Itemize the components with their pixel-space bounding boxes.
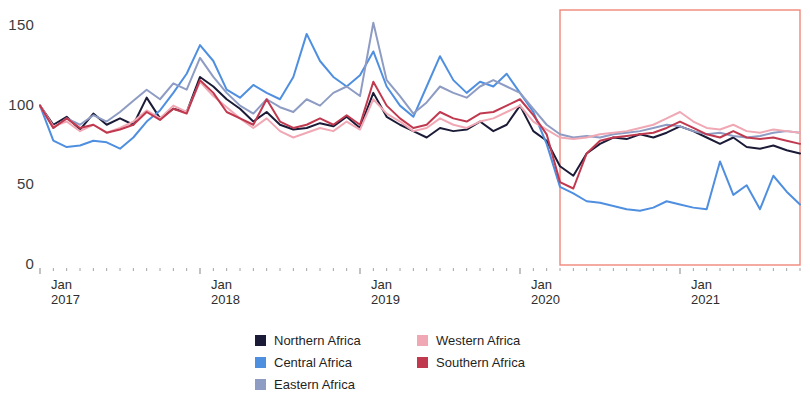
y-axis-tick-label: 100 xyxy=(0,96,34,113)
chart-legend: Northern Africa Central Africa Eastern A… xyxy=(0,330,810,396)
series-line-eastern-africa xyxy=(40,23,800,138)
legend-item[interactable]: Southern Africa xyxy=(417,352,525,372)
legend-label-northern-africa: Northern Africa xyxy=(274,333,361,348)
legend-item[interactable]: Eastern Africa xyxy=(255,374,361,394)
legend-swatch-southern-africa xyxy=(417,357,428,368)
x-axis-tick-label: Jan2019 xyxy=(371,277,400,307)
x-axis-tick-label: Jan2020 xyxy=(531,277,560,307)
x-axis-tick-month: Jan xyxy=(211,277,240,292)
x-axis-tick-year: 2017 xyxy=(51,292,80,307)
legend-column-left: Northern Africa Central Africa Eastern A… xyxy=(255,330,361,396)
x-axis-tick-month: Jan xyxy=(531,277,560,292)
x-axis-tick-marks xyxy=(40,268,800,274)
x-axis-tick-label: Jan2021 xyxy=(691,277,720,307)
legend-column-right: Western Africa Southern Africa xyxy=(417,330,525,374)
legend-item[interactable]: Northern Africa xyxy=(255,330,361,350)
legend-item[interactable]: Western Africa xyxy=(417,330,525,350)
legend-swatch-western-africa xyxy=(417,335,428,346)
x-axis-tick-label: Jan2018 xyxy=(211,277,240,307)
y-axis-tick-label: 50 xyxy=(0,175,34,192)
x-axis-tick-label: Jan2017 xyxy=(51,277,80,307)
legend-item[interactable]: Central Africa xyxy=(255,352,361,372)
y-axis-tick-label: 150 xyxy=(0,16,34,33)
x-axis-tick-year: 2020 xyxy=(531,292,560,307)
legend-swatch-eastern-africa xyxy=(255,379,266,390)
legend-swatch-northern-africa xyxy=(255,335,266,346)
y-axis-tick-label: 0 xyxy=(0,255,34,272)
x-axis-tick-month: Jan xyxy=(371,277,400,292)
legend-label-southern-africa: Southern Africa xyxy=(436,355,525,370)
x-axis-tick-year: 2018 xyxy=(211,292,240,307)
line-chart: 050100150 Jan2017Jan2018Jan2019Jan2020Ja… xyxy=(0,0,810,396)
legend-label-central-africa: Central Africa xyxy=(274,355,352,370)
x-axis-tick-year: 2021 xyxy=(691,292,720,307)
legend-label-western-africa: Western Africa xyxy=(436,333,520,348)
legend-swatch-central-africa xyxy=(255,357,266,368)
x-axis-tick-month: Jan xyxy=(691,277,720,292)
x-axis-tick-month: Jan xyxy=(51,277,80,292)
series-lines-layer xyxy=(40,23,800,211)
x-axis-tick-year: 2019 xyxy=(371,292,400,307)
legend-label-eastern-africa: Eastern Africa xyxy=(274,377,355,392)
series-line-central-africa xyxy=(40,34,800,211)
chart-plot-area xyxy=(0,0,810,320)
